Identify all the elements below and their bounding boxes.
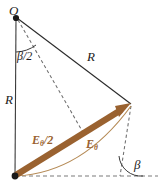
field-half-label: Eθ/2 bbox=[32, 134, 53, 147]
half-angle-label: β/2 bbox=[17, 50, 32, 62]
field-subscript: θ bbox=[94, 143, 98, 152]
field-label: Eθ bbox=[86, 138, 98, 151]
slanted-radius-line bbox=[17, 18, 131, 104]
bottom-left-vertex-dot bbox=[12, 173, 19, 180]
field-half-suffix: /2 bbox=[44, 133, 53, 147]
solid-lines bbox=[15, 18, 131, 176]
field-half-base: E bbox=[32, 133, 40, 147]
field-base: E bbox=[86, 137, 94, 151]
radius-right-label: R bbox=[87, 50, 95, 63]
radius-left-label: R bbox=[5, 93, 13, 106]
bisector-dashed-line bbox=[18, 20, 84, 134]
beta-angle-label: β bbox=[134, 158, 140, 171]
origin-label: O bbox=[9, 4, 18, 17]
vertical-radius-line bbox=[15, 18, 16, 176]
phasor-diagram-figure: O R R β/2 β Eθ/2 Eθ bbox=[0, 0, 158, 190]
dashed-lines bbox=[15, 20, 158, 176]
